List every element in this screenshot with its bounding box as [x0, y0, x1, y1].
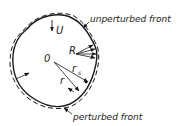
unperturbed-front-label: unperturbed front [90, 14, 171, 24]
curvature-label: R [69, 45, 76, 56]
origin-label: 0 [44, 53, 50, 64]
normal-arrow-left [16, 73, 29, 79]
normal-arrow-lower [68, 88, 74, 92]
perturbed-front-leader [64, 108, 72, 114]
radius-label: r [60, 75, 65, 86]
front-point [85, 81, 88, 84]
radius-s-label: r [72, 63, 77, 74]
front-diagram: unperturbed front perturbed front U R 0 … [0, 0, 189, 126]
radius-s-subscript: s [78, 69, 81, 76]
perturbed-front-label: perturbed front [72, 112, 143, 122]
perturbed-front-curve [10, 13, 99, 108]
curvature-arrows [76, 45, 96, 58]
velocity-label: U [56, 25, 64, 36]
